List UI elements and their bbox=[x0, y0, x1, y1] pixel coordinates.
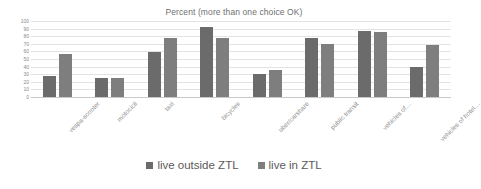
x-axis-tick: bicycles bbox=[189, 97, 242, 155]
y-axis-tick-label: 30 bbox=[23, 72, 29, 77]
bar-group bbox=[84, 21, 137, 97]
x-axis-tick-label: taxi bbox=[163, 100, 175, 112]
legend-swatch-icon bbox=[258, 162, 265, 169]
x-axis-tick: vehicles of hotel… bbox=[399, 97, 452, 155]
bar[interactable] bbox=[148, 52, 161, 97]
bar-group bbox=[31, 21, 84, 97]
bar[interactable] bbox=[269, 70, 282, 97]
y-axis-tick-label: 40 bbox=[23, 64, 29, 69]
plot-area bbox=[31, 21, 451, 97]
y-axis-tick-label: 80 bbox=[23, 34, 29, 39]
legend-swatch-icon bbox=[146, 162, 153, 169]
x-axis-tick: uber/carshare bbox=[241, 97, 294, 155]
bar[interactable] bbox=[410, 67, 423, 97]
x-axis-tick: vespa-scooter bbox=[31, 97, 84, 155]
bar[interactable] bbox=[164, 38, 177, 97]
y-axis-tick-label: 70 bbox=[23, 41, 29, 46]
chart-legend: live outside ZTLlive in ZTL bbox=[0, 159, 468, 171]
chart-title: Percent (more than one choice OK) bbox=[0, 7, 468, 17]
x-axis-tick: vehicles of… bbox=[346, 97, 399, 155]
bar[interactable] bbox=[374, 32, 387, 97]
x-axis: vespa-scootermotociclitaxibicyclesuber/c… bbox=[31, 97, 451, 155]
bar[interactable] bbox=[253, 74, 266, 97]
bar-group bbox=[399, 21, 452, 97]
bar[interactable] bbox=[321, 44, 334, 97]
y-axis-tick-label: 50 bbox=[23, 57, 29, 62]
x-axis-tick: taxi bbox=[136, 97, 189, 155]
y-axis-tick-label: 60 bbox=[23, 49, 29, 54]
bar[interactable] bbox=[216, 38, 229, 97]
bars-layer bbox=[31, 21, 451, 97]
bar[interactable] bbox=[43, 76, 56, 97]
bar-group bbox=[346, 21, 399, 97]
bar[interactable] bbox=[59, 54, 72, 97]
y-axis-tick-label: 10 bbox=[23, 87, 29, 92]
y-axis: 1009080706050403020100 bbox=[11, 21, 29, 97]
x-axis-tick: public transit bbox=[294, 97, 347, 155]
bar[interactable] bbox=[358, 31, 371, 97]
y-axis-tick-label: 20 bbox=[23, 79, 29, 84]
y-axis-tick-label: 100 bbox=[21, 19, 29, 24]
bar[interactable] bbox=[95, 78, 108, 97]
x-axis-tick: motocicli bbox=[84, 97, 137, 155]
x-axis-tick-label: bicycles bbox=[220, 100, 241, 121]
x-axis-tick-label: vehicles of hotel… bbox=[438, 100, 481, 143]
bar-group bbox=[241, 21, 294, 97]
bar[interactable] bbox=[305, 38, 318, 97]
bar[interactable] bbox=[200, 27, 213, 97]
legend-label: live outside ZTL bbox=[157, 159, 238, 171]
legend-entry[interactable]: live outside ZTL bbox=[146, 159, 238, 171]
bar[interactable] bbox=[426, 45, 439, 97]
bar-group bbox=[189, 21, 242, 97]
legend-label: live in ZTL bbox=[269, 159, 322, 171]
y-axis-tick-label: 90 bbox=[23, 26, 29, 31]
bar-group bbox=[136, 21, 189, 97]
x-axis-tick-label: motocicli bbox=[115, 100, 138, 123]
y-axis-tick-label: 0 bbox=[26, 95, 29, 100]
legend-entry[interactable]: live in ZTL bbox=[258, 159, 322, 171]
bar-group bbox=[294, 21, 347, 97]
bar[interactable] bbox=[111, 78, 124, 97]
